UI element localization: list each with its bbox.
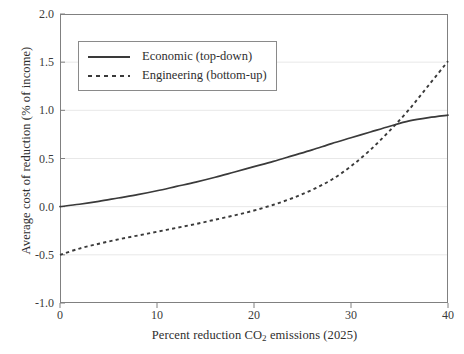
x-tick-label: 40: [428, 308, 464, 323]
legend-dashed-line-icon: [86, 70, 132, 82]
x-tick-label: 30: [331, 308, 371, 323]
y-tick-label-group: 2.01.51.00.50.0-0.5-1.0: [18, 0, 54, 354]
legend-solid-line-icon: [86, 51, 132, 63]
x-tick-label: 10: [137, 308, 177, 323]
y-tick-label: 0.5: [20, 151, 54, 166]
y-tick-label: -0.5: [20, 247, 54, 262]
x-tick-label: 0: [40, 308, 80, 323]
x-axis-label-suffix: emissions (2025): [267, 328, 358, 342]
gridlines: [60, 62, 448, 255]
x-axis-label-prefix: Percent reduction CO: [152, 328, 262, 342]
x-tick-label-group: 010203040: [0, 308, 464, 328]
legend-label-engineering: Engineering (bottom-up): [142, 68, 267, 83]
legend-label-economic: Economic (top-down): [142, 49, 252, 64]
legend-item-economic: Economic (top-down): [86, 47, 267, 66]
y-tick-label: 1.0: [20, 103, 54, 118]
x-tick-label: 20: [234, 308, 274, 323]
x-axis-label: Percent reduction CO2 emissions (2025): [60, 328, 449, 343]
chart-figure: Average cost of reduction (% of income) …: [0, 0, 464, 354]
y-tick-label: 0.0: [20, 199, 54, 214]
y-tick-label: 2.0: [20, 7, 54, 22]
legend-item-engineering: Engineering (bottom-up): [86, 66, 267, 85]
chart-legend: Economic (top-down) Engineering (bottom-…: [78, 41, 277, 91]
y-tick-label: 1.5: [20, 55, 54, 70]
